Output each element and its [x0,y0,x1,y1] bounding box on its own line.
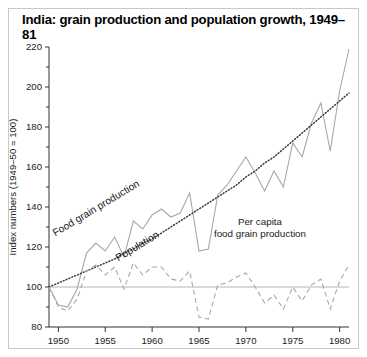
y-tick-label: 140 [26,201,42,212]
y-tick-label: 80 [31,321,42,332]
y-tick-label: 180 [26,121,42,132]
y-tick-label: 100 [26,281,42,292]
series-line [49,49,349,307]
y-tick-label: 120 [26,241,42,252]
x-tick-label: 1965 [188,335,209,346]
x-tick-label: 1970 [235,335,256,346]
y-tick-label: 200 [26,81,42,92]
x-tick-label: 1960 [141,335,162,346]
chart-plot-area: 8010012014016018020022019501955196019651… [0,0,367,357]
series-annotation-label: food grain production [214,228,306,239]
y-tick-label: 220 [26,41,42,52]
chart-figure: India: grain production and population g… [0,0,367,357]
x-tick-label: 1955 [95,335,116,346]
series-line [49,93,349,287]
x-tick-label: 1980 [329,335,350,346]
series-annotation-label: Food grain production [51,178,142,238]
y-axis-title: Index numbers (1949–50 = 100) [7,119,18,256]
series-annotation-label: Population [114,229,161,263]
y-tick-label: 160 [26,161,42,172]
x-tick-label: 1975 [282,335,303,346]
series-line [49,263,349,319]
x-tick-label: 1950 [48,335,69,346]
series-annotation-label: Per capita [238,216,283,227]
